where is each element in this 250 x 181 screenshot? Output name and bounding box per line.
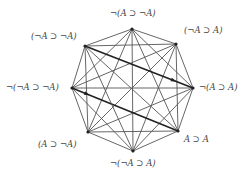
vertex-label-bl: (A ⊃ ¬A) (38, 140, 77, 149)
edge (85, 44, 176, 46)
edge (85, 46, 178, 131)
diagram-canvas: ¬(A ⊃ ¬A)(¬A ⊃ A)¬(A ⊃ A)A ⊃ A¬(¬A ⊃ A)(… (0, 0, 250, 181)
vertex-label-tl: (¬A ⊃ ¬A) (31, 32, 77, 41)
vertex-label-right: ¬(A ⊃ A) (199, 83, 238, 92)
vertex-bl (86, 130, 89, 133)
edge (176, 44, 178, 131)
vertex-label-br: A ⊃ A (184, 135, 209, 144)
edge (85, 46, 88, 132)
vertex-bottom (131, 149, 134, 152)
vertex-top (130, 27, 133, 30)
edge (176, 44, 193, 88)
vertex-label-bottom: ¬(¬A ⊃ A) (110, 159, 156, 168)
edge (178, 88, 193, 131)
vertex-br (176, 129, 179, 132)
vertex-label-top: ¬(A ⊃ ¬A) (110, 9, 156, 18)
vertex-left (70, 86, 73, 89)
vertex-label-left: ¬(¬A ⊃ ¬A) (6, 83, 59, 92)
edge (132, 29, 176, 44)
vertex-label-tr: (¬A ⊃ A) (184, 26, 223, 35)
vertex-tr (174, 42, 177, 45)
vertex-right (191, 86, 194, 89)
edge (88, 132, 133, 151)
vertex-tl (83, 44, 86, 47)
edge (85, 29, 132, 46)
edge (88, 131, 178, 132)
arrowhead-icon (170, 78, 176, 82)
